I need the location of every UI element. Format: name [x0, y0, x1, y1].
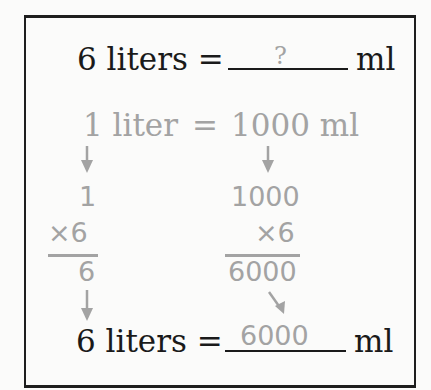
down-arrow-icon [261, 146, 275, 174]
problem-blank-line [228, 68, 348, 70]
left-result: 6 [78, 258, 95, 285]
right-result: 6000 [228, 258, 297, 285]
diagonal-arrow-icon [266, 290, 288, 316]
left-top-value: 1 [79, 183, 96, 210]
answer-unit: ml [354, 326, 393, 357]
right-top-value: 1000 [231, 183, 300, 210]
answer-blank-value: 6000 [240, 322, 309, 349]
problem-unit: ml [356, 44, 395, 75]
right-multiplier: ×6 [255, 219, 295, 246]
fact-right: 1000 ml [231, 110, 359, 141]
fact-equals: = [192, 110, 218, 141]
answer-left: 6 liters = [76, 326, 223, 357]
left-multiplier: ×6 [48, 219, 88, 246]
fact-left: 1 liter [83, 110, 178, 141]
problem-blank-value: ? [274, 44, 287, 68]
down-arrow-icon [80, 290, 94, 322]
down-arrow-icon [80, 146, 94, 174]
problem-left: 6 liters = [77, 44, 224, 75]
